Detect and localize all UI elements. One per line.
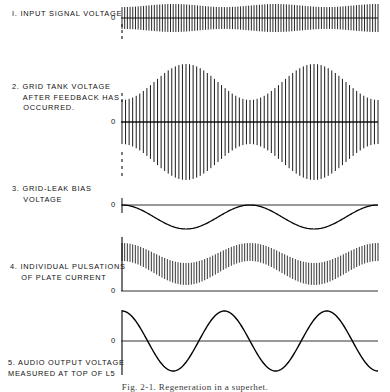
panel-2-trace <box>121 64 378 180</box>
panel-5-trace <box>121 310 378 375</box>
panel-3-trace <box>121 198 378 229</box>
panel-4-trace <box>121 237 378 291</box>
panel-1-trace <box>121 4 378 42</box>
